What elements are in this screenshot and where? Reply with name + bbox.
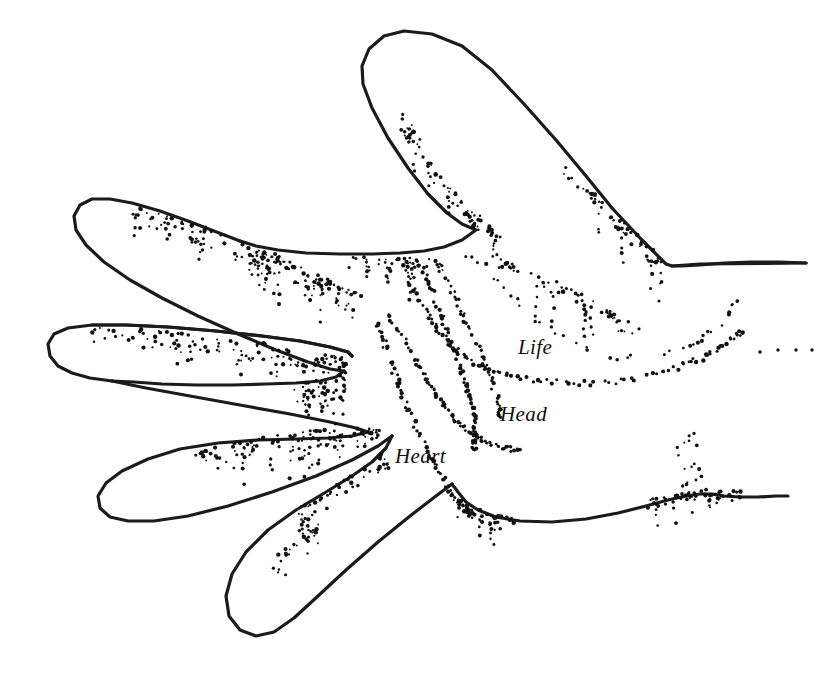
index-stipple (234, 259, 236, 261)
heart-line-dot (382, 346, 385, 349)
middle-stipple (302, 370, 306, 374)
index-stipple (277, 302, 281, 306)
palm-right-stipple (650, 264, 653, 267)
index-finger-path (74, 199, 344, 371)
ring-stipple (261, 436, 265, 440)
thumb-stipple (489, 234, 493, 238)
middle-stipple (201, 337, 204, 340)
index-stipple (199, 251, 201, 253)
middle-stipple (176, 343, 181, 348)
life-line-dot (622, 378, 626, 382)
life-line-dot (566, 381, 570, 385)
fate-line-dot (492, 381, 496, 385)
middle-stipple (277, 348, 280, 351)
index-knuckle-stipple (251, 262, 253, 264)
life-line-dot (405, 260, 409, 264)
index-stipple (297, 282, 300, 285)
palm-heel-stipple (480, 514, 484, 518)
ring-stipple (337, 449, 339, 451)
index-stipple (155, 227, 158, 230)
index-knuckle-stipple (341, 287, 343, 289)
wrist-spray-stipple (695, 479, 698, 482)
middle-stipple (216, 338, 218, 340)
middle-stipple (333, 355, 335, 357)
palm-right-stipple (623, 222, 626, 225)
thumb-stipple (411, 124, 413, 126)
index-stipple (224, 234, 227, 237)
pinky-stipple (377, 471, 379, 473)
ring-stipple (205, 460, 207, 462)
thumb-edge-stipple (506, 261, 509, 264)
thumb-edge-stipple (513, 270, 515, 272)
fate-line-dot (487, 370, 491, 374)
palm-right-stipple (647, 260, 650, 263)
middle-stipple (325, 358, 328, 361)
thumb-edge-stipple (534, 314, 537, 317)
thumb-stipple (486, 229, 490, 233)
thumb-edge-stipple (484, 262, 488, 266)
ring-stipple (364, 443, 366, 445)
life-line-dot (682, 347, 685, 350)
life-line-dot (407, 275, 410, 278)
heart-line-dot (412, 426, 415, 429)
ring-stipple (276, 440, 280, 444)
index-middle-web-stipple (307, 399, 309, 401)
middle-stipple (90, 330, 94, 334)
life-line-dot (661, 369, 665, 373)
ring-stipple (271, 468, 274, 471)
life-line-dot (427, 310, 430, 313)
index-knuckle-stipple (351, 308, 355, 312)
thumb-stipple (430, 164, 432, 166)
index-knuckle-stipple (355, 292, 357, 294)
index-middle-web-stipple (332, 412, 335, 415)
ring-stipple (225, 461, 227, 463)
index-middle-web-stipple (324, 387, 326, 389)
ring-stipple (241, 453, 244, 456)
head-line-dot (509, 450, 512, 453)
index-stipple (203, 243, 205, 245)
wrist-stipple (685, 498, 689, 502)
wrist-stipple (703, 493, 707, 497)
life-line-dot (464, 255, 467, 258)
ring-stipple (356, 445, 359, 448)
life-line-dot (471, 363, 476, 368)
thumb-stipple (495, 236, 497, 238)
middle-stipple (233, 349, 235, 351)
index-middle-web-stipple (332, 397, 335, 400)
thumb-edge-stipple (557, 291, 561, 295)
thumb-stipple (411, 130, 416, 135)
index-stipple (311, 294, 313, 296)
index-middle-web-stipple (318, 395, 320, 397)
middle-stipple (272, 348, 274, 350)
middle-stipple (269, 371, 273, 375)
middle-stipple (217, 342, 220, 345)
index-stipple (233, 252, 237, 256)
thumb-stipple (473, 214, 476, 217)
pinky-stipple (317, 524, 319, 526)
pinky-stipple (326, 494, 329, 497)
index-middle-web-stipple (334, 422, 338, 426)
thumb-edge-stipple (560, 286, 563, 289)
thumb-stipple (479, 219, 483, 223)
head-line-dot (424, 373, 427, 376)
ring-stipple (231, 445, 235, 449)
middle-stipple (313, 361, 315, 363)
fate-line-dot (437, 266, 440, 269)
fate-line-dot (478, 344, 482, 348)
thumb-stipple (433, 182, 435, 184)
wrist-stipple (738, 489, 743, 494)
ring-stipple (308, 446, 312, 450)
ring-stipple (355, 427, 359, 431)
index-stipple (199, 242, 203, 246)
pinky-stipple (384, 458, 386, 460)
thumb-stipple (418, 138, 421, 141)
pinky-stipple (298, 529, 301, 532)
middle-stipple (174, 347, 177, 350)
middle-stipple (312, 369, 315, 372)
index-stipple (203, 228, 207, 232)
life-line-dot (533, 320, 536, 323)
index-stipple (337, 292, 340, 295)
palm-heel-stipple (453, 499, 455, 501)
fate-line-dot (464, 321, 468, 325)
palm-right-stipple (592, 200, 596, 204)
